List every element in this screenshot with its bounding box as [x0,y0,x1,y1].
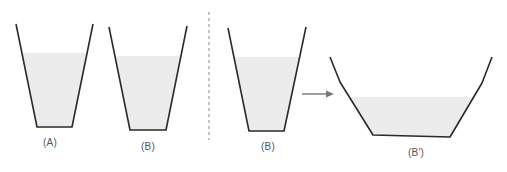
label-container-b: (B) [141,141,155,152]
liquid-fill [115,56,181,130]
container-b-prime [330,57,492,137]
containers-layer [16,24,492,137]
liquid-fill [234,57,300,131]
container-a [16,24,93,127]
container-b [109,26,187,130]
transform-arrow-icon [302,91,334,98]
container-diagram [0,0,507,172]
liquid-fill [22,53,87,127]
label-container-b-prime: (B') [408,147,424,158]
label-container-b-copy: (B) [261,141,275,152]
label-container-a: (A) [43,137,57,148]
arrow-head [326,91,334,98]
container-b-copy [228,27,306,131]
liquid-fill [349,97,473,137]
